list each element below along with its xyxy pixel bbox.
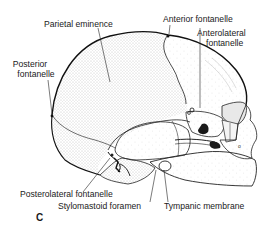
label-anterolateral-fontanelle-line2: fontanelle [206, 38, 243, 48]
svg-text:o: o [238, 143, 241, 149]
panel-letter: C [36, 212, 43, 223]
label-posterior-fontanelle-line1: Posterior [8, 59, 52, 69]
label-anterolateral-fontanelle-line1: Anterolateral [197, 28, 246, 38]
skull-diagram: o [0, 0, 275, 229]
tympanic-ring [159, 161, 171, 171]
label-stylomastoid-foramen: Stylomastoid foramen [58, 201, 141, 211]
anterior-fontanelle-marker [167, 35, 170, 38]
posterior-fontanelle-marker [51, 115, 54, 118]
label-tympanic-membrane: Tympanic membrane [164, 201, 244, 211]
label-anterior-fontanelle: Anterior fontanelle [163, 14, 233, 24]
label-posterior-fontanelle-line2: fontanelle [12, 69, 60, 79]
label-posterolateral-fontanelle: Posterolateral fontanelle [20, 189, 113, 199]
label-parietal-eminence: Parietal eminence [44, 19, 113, 29]
